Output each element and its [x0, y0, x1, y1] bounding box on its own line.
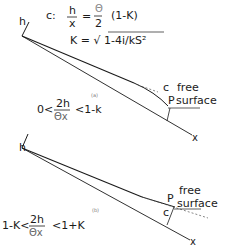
surface-label: surface [177, 197, 218, 210]
c-label: c: [46, 9, 56, 22]
free-label: free [179, 184, 201, 197]
x-axis [22, 148, 190, 240]
diagram-label: (b) [92, 207, 99, 213]
diagram-label: (a) [91, 92, 98, 98]
equals-sign: = [82, 10, 91, 23]
condition-numerator: 2h [56, 97, 70, 110]
rhs-denominator: 2 [95, 17, 102, 30]
upper-line [22, 148, 142, 197]
condition-left: 1-K< [2, 219, 29, 232]
condition-denominator: Θx [29, 227, 43, 238]
surface-label: surface [176, 94, 217, 107]
axis-x-label: x [192, 132, 198, 143]
condition-denominator: Θx [54, 111, 68, 122]
point-c-label: c [163, 206, 169, 219]
lhs-numerator: h [69, 4, 76, 17]
point-c-label: c [163, 81, 169, 94]
diagram-b: h x P c free surface (b) 1-K< 2h Θx <1+K [2, 134, 218, 247]
normal-line [167, 108, 170, 121]
rhs-numerator: Θ [95, 3, 103, 14]
condition-numerator: 2h [30, 213, 44, 226]
rhs-factor: (1-K) [111, 9, 138, 22]
k-definition: K = √ 1-4i/kS² [70, 34, 146, 47]
condition-right: <1+K [52, 219, 85, 232]
axis-x-label: x [190, 236, 196, 247]
point-p-label: P [167, 192, 174, 205]
equations: c: h x = Θ 2 (1-K) K = √ 1-4i/kS² [46, 3, 164, 47]
lhs-denominator: x [69, 17, 76, 30]
point-p-label: P [168, 94, 175, 107]
condition-right: <1-k [75, 103, 102, 116]
condition-left: 0< [37, 103, 53, 116]
free-label: free [177, 81, 199, 94]
characteristics-diagram: c: h x = Θ 2 (1-K) K = √ 1-4i/kS² h x c … [0, 0, 226, 252]
axis-h-label: h [19, 15, 26, 28]
